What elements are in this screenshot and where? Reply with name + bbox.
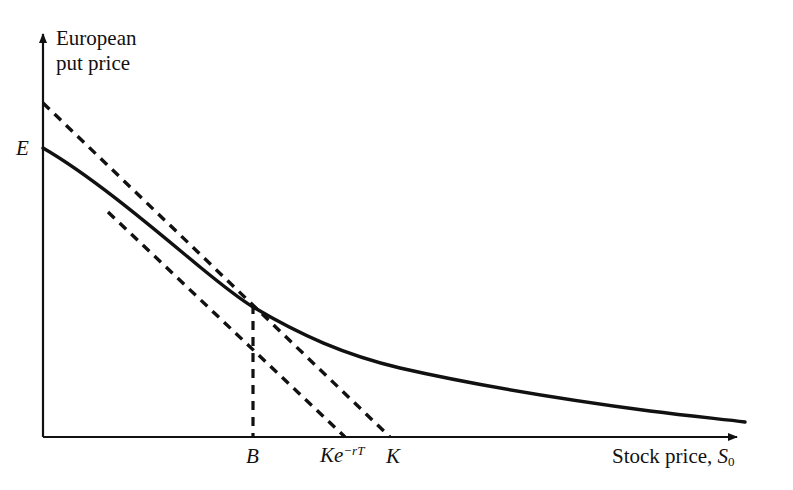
- x-tick-label-ke-rt: Ke−rT: [320, 443, 364, 468]
- x-axis-label-symbol-group: S0: [718, 444, 735, 468]
- x-tick-ke-base: Ke: [320, 443, 343, 467]
- y-axis-label: European put price: [56, 26, 136, 76]
- x-axis-label-subscript: 0: [728, 454, 735, 469]
- x-axis-label: Stock price, S0: [612, 444, 735, 469]
- x-tick-label-B: B: [246, 444, 259, 469]
- x-tick-ke-exponent: −rT: [343, 443, 364, 458]
- put-price-figure: European put price Stock price, S0 E B K…: [0, 0, 793, 490]
- y-intercept-label-E: E: [16, 136, 29, 161]
- x-axis-label-text: Stock price,: [612, 444, 718, 468]
- upper-bound-dashed-line: [43, 103, 390, 437]
- y-axis-label-line1: European: [56, 26, 136, 50]
- tangent-dashed-line: [108, 212, 345, 437]
- y-axis-label-line2: put price: [56, 51, 136, 76]
- put-price-curve: [43, 148, 745, 422]
- x-tick-label-K: K: [386, 444, 400, 469]
- x-axis-label-symbol: S: [718, 444, 729, 468]
